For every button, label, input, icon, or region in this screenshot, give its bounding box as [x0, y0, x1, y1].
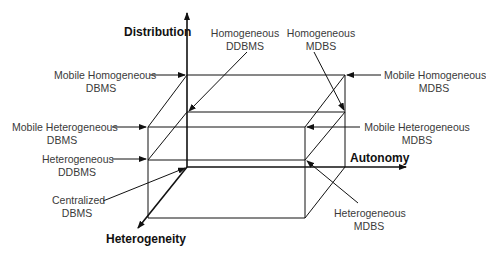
- label-line: MDBS: [364, 134, 470, 147]
- label-line: Mobile Homogeneous: [54, 69, 148, 82]
- axis-label-autonomy: Autonomy: [350, 151, 409, 165]
- label-heterogeneous-ddbms: Heterogeneous DDBMS: [42, 153, 112, 179]
- label-line: Heterogeneous: [334, 207, 404, 220]
- label-line: MDBS: [384, 82, 484, 95]
- label-homogeneous-ddbms: Homogeneous DDBMS: [210, 27, 280, 53]
- label-line: Mobile Heterogeneous: [12, 121, 112, 134]
- label-line: Mobile Heterogeneous: [364, 121, 470, 134]
- axis-label-heterogeneity: Heterogeneity: [106, 232, 186, 246]
- label-line: MDBS: [334, 220, 404, 233]
- label-heterogeneous-mdbs: Heterogeneous MDBS: [334, 207, 404, 233]
- label-line: DBMS: [54, 82, 148, 95]
- label-mobile-homogeneous-dbms: Mobile Homogeneous DBMS: [54, 69, 148, 95]
- label-mobile-heterogeneous-mdbs: Mobile Heterogeneous MDBS: [364, 121, 470, 147]
- axis-label-distribution: Distribution: [124, 25, 191, 39]
- label-line: Centralized: [52, 194, 102, 207]
- label-line: DBMS: [52, 207, 102, 220]
- label-line: Homogeneous: [286, 27, 356, 40]
- label-line: Heterogeneous: [42, 153, 112, 166]
- arrow-homogeneous-mdbs: [314, 52, 344, 110]
- label-line: DDBMS: [42, 166, 112, 179]
- label-mobile-heterogeneous-dbms: Mobile Heterogeneous DBMS: [12, 121, 112, 147]
- label-line: Homogeneous: [210, 27, 280, 40]
- label-line: DDBMS: [210, 40, 280, 53]
- label-centralized-dbms: Centralized DBMS: [52, 194, 102, 220]
- label-line: Mobile Homogeneous: [384, 69, 484, 82]
- label-homogeneous-mdbs: Homogeneous MDBS: [286, 27, 356, 53]
- heterogeneity-axis: [138, 167, 187, 228]
- label-line: DBMS: [12, 134, 112, 147]
- label-mobile-homogeneous-mdbs: Mobile Homogeneous MDBS: [384, 69, 484, 95]
- label-line: MDBS: [286, 40, 356, 53]
- arrow-homogeneous-ddbms: [189, 52, 247, 111]
